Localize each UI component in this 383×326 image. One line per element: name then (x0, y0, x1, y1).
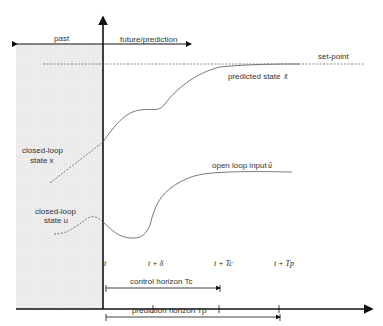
past-region (16, 44, 103, 309)
predicted-state-label: predicted state (228, 72, 281, 81)
open-loop-input-symbol: ū (268, 161, 272, 170)
closed-loop-state-u-label-1: closed-loop (35, 207, 76, 216)
tick-label-t: t (104, 259, 107, 268)
closed-loop-state-u-label-2: state u (44, 216, 68, 225)
tick-label-t-delta: t + δ (148, 259, 164, 268)
mpc-diagram: past future/prediction set-point predict… (0, 0, 383, 326)
prediction-horizon-label: prediction horizon Tp (132, 306, 207, 315)
open-loop-input-label: open loop input (212, 161, 267, 170)
tick-label-t-tc: t + Tc (214, 259, 233, 268)
past-label: past (54, 34, 70, 43)
setpoint-label: set-point (318, 52, 349, 61)
closed-loop-state-x-label-2: state x (30, 156, 54, 165)
open-loop-input-curve (103, 172, 292, 239)
future-label: future/prediction (120, 35, 177, 44)
tick-label-t-tp: t + Tp (274, 259, 294, 268)
predicted-state-symbol: x̄ (283, 72, 288, 81)
control-horizon-label: control horizon Tc (130, 277, 193, 286)
closed-loop-state-x-label-1: closed-loop (22, 146, 63, 155)
